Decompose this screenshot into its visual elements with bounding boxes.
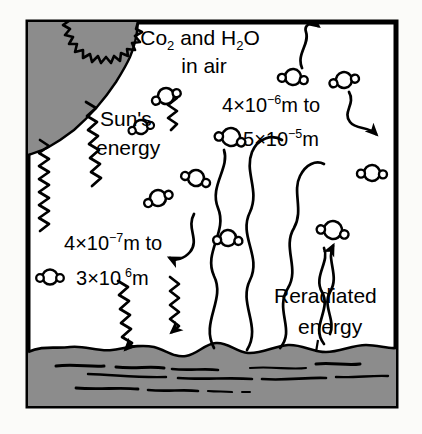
sun-energy-label-line2: energy xyxy=(96,136,161,159)
title-and-text: and H xyxy=(174,26,236,49)
ir-line2-exponent: −5 xyxy=(288,127,302,141)
solar-line2-unit: m xyxy=(132,267,149,289)
solar-line2-base: 10 xyxy=(99,267,121,289)
solar-range-line2: 3×106m xyxy=(76,266,149,289)
solar-line1-times: × xyxy=(75,232,87,254)
ir-line2-coeff: 5 xyxy=(243,128,254,150)
title-line-2: in air xyxy=(181,54,227,77)
greenhouse-effect-figure: Co2 and H2O in air Sun's energy 4×10−6m … xyxy=(0,0,422,434)
infrared-range-line2: 5×10−5m xyxy=(243,127,319,150)
title-o-text: O xyxy=(243,26,259,49)
solar-line1-base: 10 xyxy=(87,232,109,254)
solar-line1-unit: m to xyxy=(123,232,162,254)
ir-line2-times: × xyxy=(254,128,266,150)
solar-line2-times: × xyxy=(87,267,99,289)
ir-line1-base: 10 xyxy=(245,94,267,116)
ir-line2-base: 10 xyxy=(266,128,288,150)
ir-line2-unit: m xyxy=(302,128,319,150)
title-h2o-subscript: 2 xyxy=(236,38,243,53)
reradiated-label-line1: Reradiated xyxy=(274,284,377,307)
reradiated-label-line2: energy xyxy=(298,315,363,338)
ir-line1-exponent: −6 xyxy=(267,93,281,107)
diagram-canvas: Co2 and H2O in air Sun's energy 4×10−6m … xyxy=(0,0,422,434)
title-co-subscript: 2 xyxy=(167,38,174,53)
ir-line1-times: × xyxy=(233,94,245,116)
sun-energy-label-line1: Sun's xyxy=(100,107,152,130)
solar-line1-exponent: −7 xyxy=(109,231,123,245)
solar-line2-exponent: 6 xyxy=(125,266,132,280)
solar-line2-coeff: 3 xyxy=(76,267,87,289)
ir-line1-coeff: 4 xyxy=(222,94,233,116)
solar-line1-coeff: 4 xyxy=(64,232,75,254)
ground-fill xyxy=(28,343,396,406)
ground-graphic xyxy=(28,343,396,406)
title-co-text: Co xyxy=(140,26,167,49)
ir-line1-unit: m to xyxy=(281,94,320,116)
